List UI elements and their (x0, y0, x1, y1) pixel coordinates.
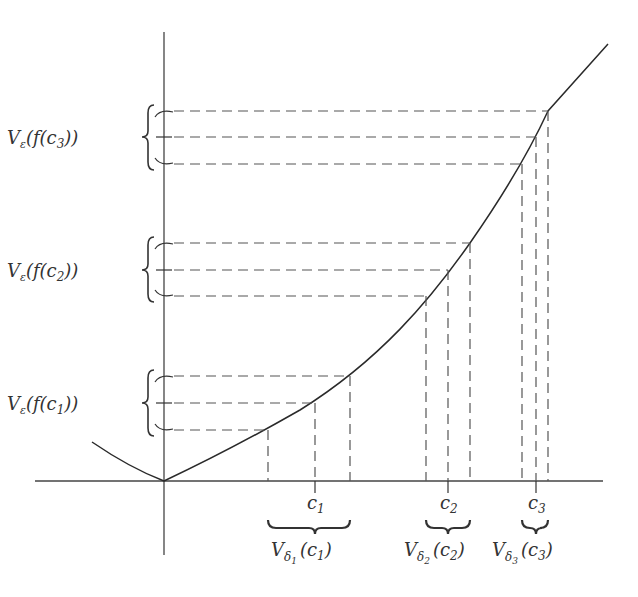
label-eps-neighborhood-c2: Vε(f(c2)) (7, 260, 78, 284)
x-brace-c2 (426, 520, 470, 534)
labels: Vε(f(c1))c1Vδ1(c1)Vε(f(c2))c2Vδ2(c2)Vε(f… (7, 127, 553, 566)
tick-label-c3: c3 (528, 492, 546, 516)
y-brace-c3 (142, 105, 154, 170)
x-brace-c3 (522, 520, 548, 534)
tick-label-c1: c1 (307, 492, 325, 516)
dashed-guides (174, 111, 548, 481)
y-brace-c2 (142, 237, 154, 302)
label-delta-neighborhood-c1: Vδ1(c1) (271, 539, 332, 566)
label-delta-neighborhood-c3: Vδ3(c3) (492, 539, 553, 566)
axis-marks (142, 105, 548, 534)
tick-label-c2: c2 (440, 492, 458, 516)
x-brace-c1 (268, 520, 350, 534)
uniform-continuity-diagram: Vε(f(c1))c1Vδ1(c1)Vε(f(c2))c2Vδ2(c2)Vε(f… (0, 0, 638, 597)
label-eps-neighborhood-c3: Vε(f(c3)) (7, 127, 78, 151)
y-brace-c1 (142, 370, 154, 436)
label-delta-neighborhood-c2: Vδ2(c2) (404, 539, 465, 566)
label-eps-neighborhood-c1: Vε(f(c1)) (7, 393, 78, 417)
